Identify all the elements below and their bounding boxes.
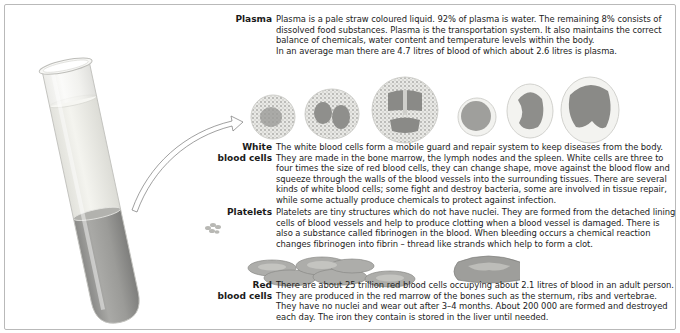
label-line-1: Red	[253, 280, 272, 290]
red-blood-cells-description: There are about 25 trillion red blood ce…	[276, 280, 676, 322]
red-blood-cells-label: Red blood cells	[200, 280, 272, 302]
label-line-2: blood cells	[218, 291, 272, 301]
platelets-description: Platelets are tiny structures which do n…	[276, 207, 676, 249]
plasma-volume-text: In an average man there are 4.7 litres o…	[276, 46, 617, 56]
plasma-description: Plasma is a pale straw coloured liquid. …	[276, 14, 676, 56]
label-line-1: White	[242, 142, 272, 152]
label-line-2: blood cells	[218, 153, 272, 163]
plasma-label: Plasma	[200, 14, 272, 25]
platelets-label: Platelets	[200, 207, 272, 218]
plasma-text: Plasma is a pale straw coloured liquid. …	[276, 14, 661, 45]
white-blood-cells-description: The white blood cells form a mobile guar…	[276, 142, 676, 206]
white-blood-cells-label: White blood cells	[200, 142, 272, 164]
